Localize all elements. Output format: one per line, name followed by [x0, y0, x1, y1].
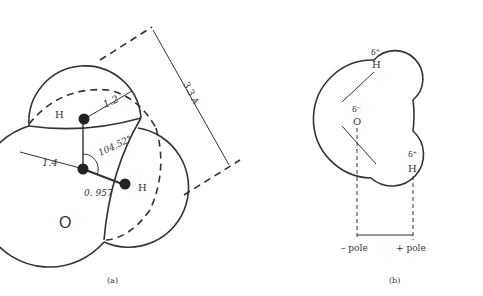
bond-O-H2-b [342, 126, 376, 164]
dim-angle: 104.52° [97, 134, 134, 158]
hydrogen-nucleus-top [79, 114, 90, 125]
figure-svg: H H O 1.2 1.4 104.52° 0. 957 3.3 A (a) δ… [0, 0, 483, 296]
dim-ext-top [100, 27, 152, 60]
label-O-a: O [59, 214, 71, 231]
label-H1-a: H [55, 109, 64, 120]
label-H2-b: H [408, 163, 417, 174]
hydrogen-nucleus-right [120, 179, 131, 190]
label-H2-a: H [138, 182, 147, 193]
label-O-b: O [353, 116, 361, 127]
dim-vdw-H: 1.2 [101, 93, 120, 110]
oxygen-nucleus [78, 164, 89, 175]
dim-ext-bottom [184, 160, 240, 195]
label-pos-pole: + pole [396, 243, 426, 253]
water-molecule-figure: H H O 1.2 1.4 104.52° 0. 957 3.3 A (a) δ… [0, 0, 483, 296]
label-H1-b: H [372, 59, 381, 70]
dim-vdw-O: 1.4 [42, 157, 58, 168]
caption-a: (a) [107, 276, 118, 285]
charge-H1: δ⁺ [371, 48, 380, 57]
label-neg-pole: – pole [341, 243, 368, 253]
caption-b: (b) [389, 276, 400, 285]
charge-H2: δ⁺ [408, 150, 417, 159]
dim-length: 3.3 A [181, 80, 201, 106]
panel-b [313, 51, 423, 240]
bond-O-H2 [83, 169, 125, 185]
molecule-outline [313, 51, 423, 186]
hidden-outline-top [29, 90, 156, 128]
labels-b: δ⁺ H δ⁻ O δ⁺ H – pole + pole (b) [341, 48, 426, 285]
charge-O: δ⁻ [352, 105, 361, 114]
dim-bond: 0. 957 [84, 188, 113, 198]
bond-O-H1-b [342, 72, 374, 102]
